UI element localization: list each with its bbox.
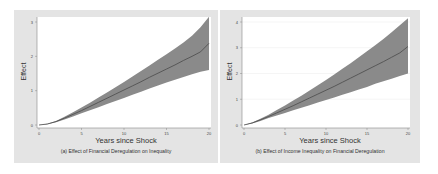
- x-tick-label: 10: [324, 131, 329, 136]
- chart-caption: (b) Effect of Income Inequality on Finan…: [220, 148, 420, 154]
- x-tick-label: 0: [38, 131, 41, 136]
- y-tick-label: 3: [236, 45, 239, 50]
- y-tick-label: 3: [31, 20, 34, 25]
- x-axis-label: Years since Shock: [240, 136, 420, 145]
- y-tick-label: 4: [236, 20, 239, 25]
- x-tick-label: 10: [122, 131, 127, 136]
- x-tick-label: 20: [406, 131, 411, 136]
- y-tick-label: 0: [236, 123, 239, 128]
- chart-panel-b: 0123405101520 Effect Years since Shock (…: [220, 10, 420, 163]
- x-tick-label: 15: [164, 131, 169, 136]
- x-axis-label: Years since Shock: [34, 136, 218, 145]
- x-tick-label: 5: [284, 131, 287, 136]
- y-tick-label: 2: [236, 71, 239, 76]
- y-tick-label: 0: [31, 123, 34, 128]
- y-tick-label: 1: [236, 97, 239, 102]
- x-tick-label: 20: [207, 131, 212, 136]
- x-tick-label: 0: [243, 131, 246, 136]
- y-tick-label: 1: [31, 88, 34, 93]
- x-tick-label: 5: [80, 131, 83, 136]
- x-tick-label: 15: [365, 131, 370, 136]
- chart-caption: (a) Effect of Financial Deregulation on …: [14, 148, 218, 154]
- y-axis-label: Effect: [226, 57, 233, 87]
- chart-panel-a: 012305101520 Effect Years since Shock (a…: [14, 10, 218, 163]
- y-axis-label: Effect: [20, 57, 27, 87]
- y-tick-label: 2: [31, 54, 34, 59]
